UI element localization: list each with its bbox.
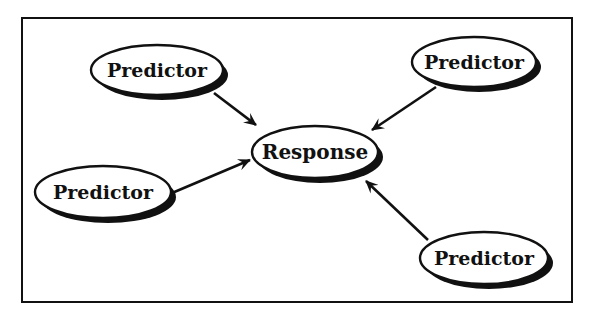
node-label: Predictor bbox=[53, 181, 154, 203]
node-response: Response bbox=[252, 126, 383, 183]
arrow-predictor-top-left-to-response bbox=[214, 93, 256, 125]
node-predictor-top-right: Predictor bbox=[412, 37, 541, 92]
node-label: Predictor bbox=[424, 51, 525, 73]
node-predictor-bottom-right: Predictor bbox=[420, 232, 553, 289]
node-label: Predictor bbox=[434, 247, 535, 269]
node-label: Response bbox=[262, 140, 368, 164]
nodes-group: PredictorPredictorResponsePredictorPredi… bbox=[35, 37, 553, 289]
arrow-predictor-bottom-right-to-response bbox=[366, 181, 428, 240]
arrow-predictor-top-right-to-response bbox=[372, 87, 436, 130]
node-predictor-top-left: Predictor bbox=[91, 45, 228, 100]
predictor-response-diagram: PredictorPredictorResponsePredictorPredi… bbox=[0, 0, 592, 318]
arrow-predictor-left-to-response bbox=[172, 160, 250, 193]
node-label: Predictor bbox=[107, 59, 208, 81]
node-predictor-left: Predictor bbox=[35, 166, 176, 223]
